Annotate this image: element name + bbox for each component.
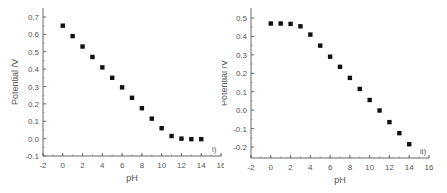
x-tick-label: 0 (61, 161, 66, 170)
y-tick-label: -0.2 (233, 143, 247, 152)
x-tick-label: 16 (425, 163, 434, 172)
chart-ii-plot: -20246810121416-0.2-0.10.00.10.20.30.40.… (222, 0, 447, 193)
y-axis-label: Potential /V (222, 60, 229, 106)
y-tick-label: 0.3 (28, 83, 40, 92)
x-tick-label: 10 (157, 161, 166, 170)
data-point (80, 44, 84, 48)
data-point (269, 21, 273, 25)
x-tick-label: 6 (120, 161, 125, 170)
data-point (179, 136, 183, 140)
data-point (130, 96, 134, 100)
y-tick-label: 0.3 (236, 51, 248, 60)
data-point (150, 116, 154, 120)
data-point (288, 22, 292, 26)
y-tick-label: 0.4 (28, 65, 40, 74)
data-point (100, 65, 104, 69)
y-axis-label: Potential /V (10, 59, 20, 105)
data-point (110, 76, 114, 80)
x-tick-label: 6 (328, 163, 333, 172)
data-point (407, 142, 411, 146)
x-tick-label: -2 (39, 161, 47, 170)
data-point (159, 126, 163, 130)
data-point (189, 137, 193, 141)
y-tick-label: 0.7 (28, 13, 40, 22)
data-point (308, 32, 312, 36)
chart-ii: -20246810121416-0.2-0.10.00.10.20.30.40.… (222, 0, 447, 193)
x-tick-label: 4 (100, 161, 105, 170)
data-point (278, 21, 282, 25)
x-tick-label: 10 (365, 163, 374, 172)
y-tick-label: 0.5 (28, 48, 40, 57)
data-point (61, 23, 65, 27)
data-point (328, 55, 332, 59)
y-tick-label: 0.2 (28, 100, 40, 109)
y-tick-label: 0.0 (28, 135, 40, 144)
x-tick-label: -2 (247, 163, 255, 172)
y-tick-label: 0.1 (236, 88, 248, 97)
data-point (199, 137, 203, 141)
x-tick-label: 0 (269, 163, 274, 172)
y-tick-label: 0.5 (236, 14, 248, 23)
data-point (348, 76, 352, 80)
y-tick-label: -0.1 (25, 152, 39, 161)
x-axis-label: pH (334, 175, 346, 185)
data-point (169, 134, 173, 138)
data-point (90, 55, 94, 59)
panel-label: ii) (420, 147, 427, 156)
data-point (318, 43, 322, 47)
x-tick-label: 8 (140, 161, 145, 170)
data-point (397, 131, 401, 135)
data-point (70, 34, 74, 38)
y-tick-label: 0.4 (236, 32, 248, 41)
x-tick-label: 8 (348, 163, 353, 172)
x-tick-label: 14 (405, 163, 414, 172)
x-tick-label: 14 (197, 161, 206, 170)
y-tick-label: 0.2 (236, 69, 248, 78)
x-tick-label: 2 (80, 161, 85, 170)
data-point (298, 24, 302, 28)
data-point (120, 85, 124, 89)
x-tick-label: 12 (177, 161, 186, 170)
data-point (387, 120, 391, 124)
y-tick-label: -0.1 (233, 125, 247, 134)
y-tick-label: 0.6 (28, 30, 40, 39)
panel-label: i) (212, 145, 217, 154)
chart-i-plot: -20246810121416-0.10.00.10.20.30.40.50.6… (0, 0, 224, 193)
data-point (358, 87, 362, 91)
data-point (367, 98, 371, 102)
chart-i: -20246810121416-0.10.00.10.20.30.40.50.6… (0, 0, 224, 193)
y-tick-label: 0.1 (28, 117, 40, 126)
data-point (338, 65, 342, 69)
x-tick-label: 12 (385, 163, 394, 172)
x-tick-label: 4 (308, 163, 313, 172)
x-tick-label: 2 (288, 163, 293, 172)
data-point (140, 106, 144, 110)
y-tick-label: 0.0 (236, 106, 248, 115)
data-point (377, 108, 381, 112)
x-axis-label: pH (126, 173, 138, 183)
